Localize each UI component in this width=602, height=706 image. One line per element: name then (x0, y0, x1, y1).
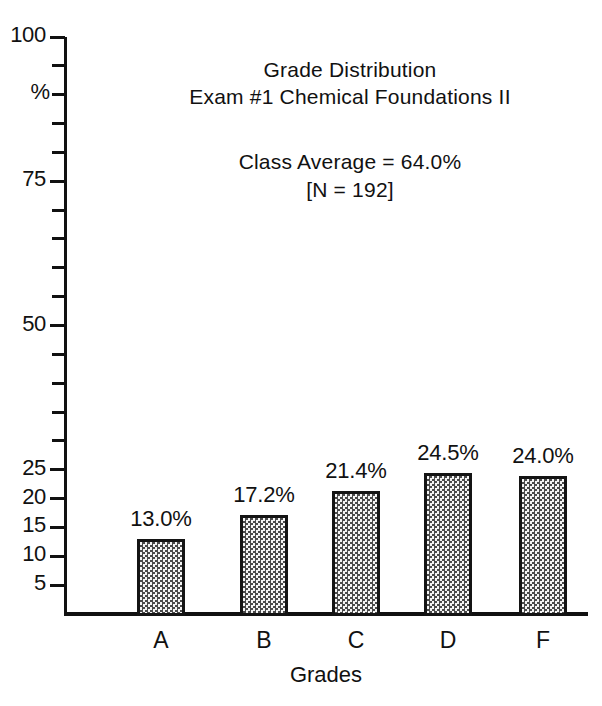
y-axis-tick-40 (52, 382, 65, 385)
x-axis-category-label-F: F (503, 627, 583, 654)
x-axis-category-label-B: B (224, 627, 304, 654)
y-axis-tick-95 (52, 64, 65, 67)
bar-value-label-A: 13.0% (111, 506, 211, 532)
bar-value-label-D: 24.5% (398, 440, 498, 466)
y-axis-tick-85 (52, 122, 65, 125)
y-axis-tick-90 (52, 93, 65, 96)
y-axis-label-100: 100 (2, 22, 46, 48)
x-axis-title: Grades (201, 662, 451, 688)
y-axis-unit-label: % (20, 79, 50, 105)
y-axis-label-75: 75 (2, 166, 46, 192)
y-axis-tick-5 (50, 584, 65, 587)
grade-distribution-chart: Grade Distribution Exam #1 Chemical Foun… (0, 0, 602, 706)
chart-title: Grade Distribution (150, 56, 550, 83)
y-axis-tick-60 (52, 266, 65, 269)
y-axis-tick-15 (50, 526, 65, 529)
y-axis-tick-30 (52, 439, 65, 442)
bar-B (240, 515, 288, 616)
bar-value-label-B: 17.2% (214, 482, 314, 508)
y-axis-tick-10 (50, 555, 65, 558)
y-axis-label-10: 10 (2, 541, 46, 567)
bar-C (332, 491, 380, 616)
chart-subtitle: Exam #1 Chemical Foundations II (150, 83, 550, 110)
x-axis-category-label-D: D (408, 627, 488, 654)
y-axis-label-25: 25 (2, 455, 46, 481)
y-axis-label-15: 15 (2, 512, 46, 538)
y-axis-tick-50 (50, 324, 65, 327)
bar-value-label-C: 21.4% (306, 458, 406, 484)
bar-F (519, 476, 567, 616)
bar-value-label-F: 24.0% (493, 443, 593, 469)
y-axis-label-50: 50 (2, 311, 46, 337)
y-axis-label-20: 20 (2, 484, 46, 510)
x-axis-category-label-C: C (316, 627, 396, 654)
class-average-annotation: Class Average = 64.0% (150, 148, 550, 176)
chart-annotation-block: Class Average = 64.0% [N = 192] (150, 148, 550, 203)
chart-title-block: Grade Distribution Exam #1 Chemical Foun… (150, 56, 550, 111)
y-axis-tick-45 (52, 353, 65, 356)
y-axis-tick-55 (52, 295, 65, 298)
y-axis-tick-80 (52, 151, 65, 154)
y-axis-tick-65 (52, 237, 65, 240)
bar-D (424, 473, 472, 616)
y-axis-tick-25 (50, 468, 65, 471)
y-axis-tick-20 (50, 497, 65, 500)
bar-A (137, 539, 185, 616)
sample-size-annotation: [N = 192] (150, 176, 550, 204)
x-axis-category-label-A: A (121, 627, 201, 654)
y-axis-tick-70 (52, 209, 65, 212)
y-axis-tick-75 (50, 180, 65, 183)
y-axis-tick-35 (52, 411, 65, 414)
y-axis-tick-100 (50, 36, 65, 39)
y-axis-label-5: 5 (2, 570, 46, 596)
